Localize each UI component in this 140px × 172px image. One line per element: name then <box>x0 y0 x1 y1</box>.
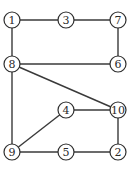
node-label: 7 <box>115 14 122 27</box>
node-label: 1 <box>9 14 16 27</box>
node-9: 9 <box>4 144 20 160</box>
node-2: 2 <box>110 144 126 160</box>
edge-9-4 <box>12 110 66 152</box>
node-6: 6 <box>110 56 126 72</box>
node-10: 10 <box>110 102 126 118</box>
node-1: 1 <box>4 12 20 28</box>
node-layer: 13786410952 <box>4 12 126 160</box>
node-label: 2 <box>115 146 122 159</box>
node-label: 4 <box>63 104 70 117</box>
node-8: 8 <box>4 56 20 72</box>
node-label: 6 <box>115 58 122 71</box>
node-label: 3 <box>63 14 70 27</box>
node-4: 4 <box>58 102 74 118</box>
node-7: 7 <box>110 12 126 28</box>
node-5: 5 <box>58 144 74 160</box>
node-3: 3 <box>58 12 74 28</box>
node-label: 9 <box>9 146 16 159</box>
node-label: 8 <box>9 58 16 71</box>
node-label: 10 <box>111 104 125 117</box>
graph-diagram: 13786410952 <box>0 0 140 172</box>
edge-layer <box>12 20 118 152</box>
node-label: 5 <box>63 146 70 159</box>
